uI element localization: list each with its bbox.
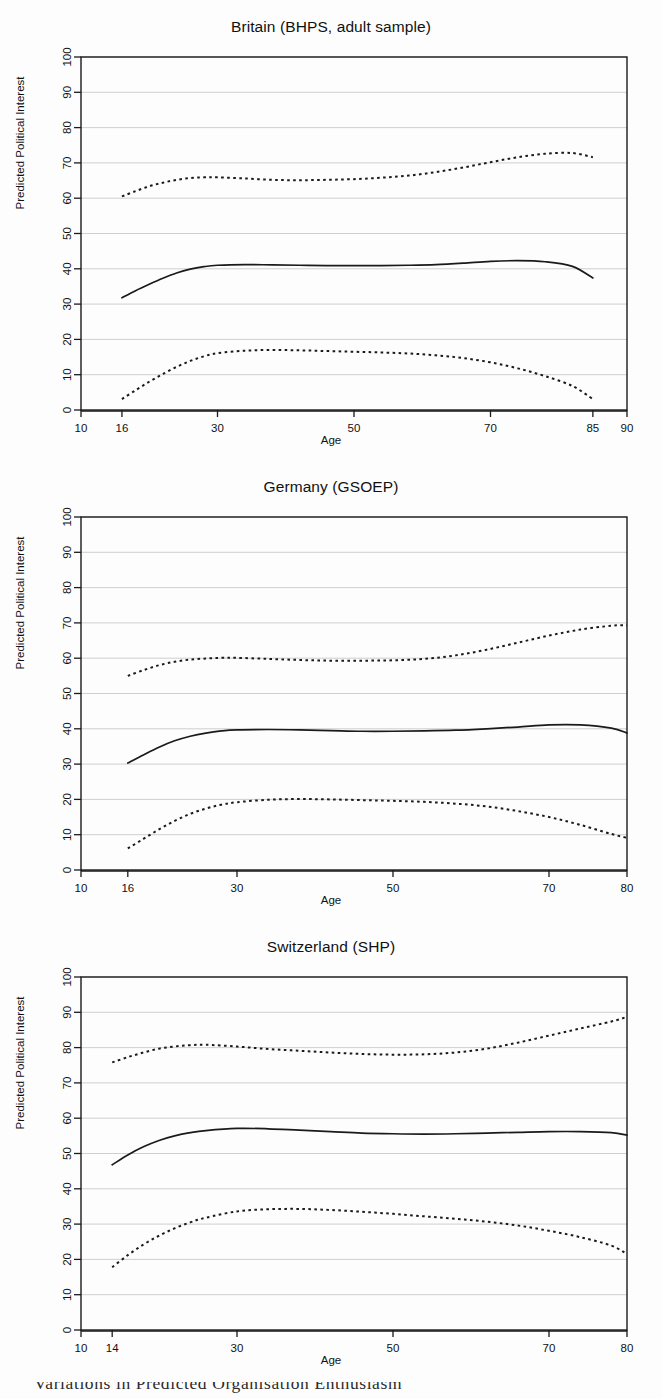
x-axis-label: Age (0, 434, 662, 446)
svg-text:16: 16 (116, 422, 129, 434)
y-axis-ticks: 0102030405060708090100 (61, 47, 81, 413)
plot-area: 0102030405060708090100101630507080 (0, 460, 662, 920)
svg-text:60: 60 (61, 652, 73, 665)
svg-text:90: 90 (621, 422, 634, 434)
y-axis-label-text: Predicted Political Interest (14, 76, 26, 209)
svg-text:30: 30 (61, 298, 73, 311)
svg-text:50: 50 (387, 1342, 400, 1354)
svg-text:50: 50 (61, 1147, 73, 1160)
svg-text:10: 10 (75, 422, 88, 434)
chart-panel-germany: 0102030405060708090100101630507080 Germa… (0, 460, 662, 920)
svg-text:50: 50 (61, 227, 73, 240)
svg-text:70: 70 (61, 617, 73, 630)
svg-text:30: 30 (61, 758, 73, 771)
svg-text:100: 100 (61, 47, 73, 66)
gridlines (81, 977, 627, 1295)
gridlines (81, 57, 627, 375)
svg-text:80: 80 (621, 1342, 634, 1354)
svg-text:70: 70 (61, 1077, 73, 1090)
chart-title: Britain (BHPS, adult sample) (0, 18, 662, 36)
svg-text:50: 50 (387, 882, 400, 894)
svg-text:10: 10 (61, 1288, 73, 1301)
svg-text:10: 10 (75, 1342, 88, 1354)
chart-panel-britain: 010203040506070809010010163050708590 Bri… (0, 0, 662, 460)
svg-text:30: 30 (231, 1342, 244, 1354)
series-predicted-mean (112, 1128, 627, 1164)
svg-text:90: 90 (61, 86, 73, 99)
svg-text:20: 20 (61, 793, 73, 806)
series-lower-bound (112, 1209, 627, 1267)
svg-text:10: 10 (61, 368, 73, 381)
svg-text:40: 40 (61, 722, 73, 735)
y-axis-label: Predicted Political Interest (14, 360, 26, 580)
svg-text:80: 80 (621, 882, 634, 894)
y-axis-label-text: Predicted Political Interest (14, 996, 26, 1129)
svg-text:70: 70 (543, 882, 556, 894)
svg-text:40: 40 (61, 1182, 73, 1195)
y-axis-label-text: Predicted Political Interest (14, 536, 26, 669)
svg-text:20: 20 (61, 1253, 73, 1266)
chart-title: Germany (GSOEP) (0, 478, 662, 496)
svg-text:14: 14 (106, 1342, 119, 1354)
svg-text:90: 90 (61, 546, 73, 559)
plot-area: 0102030405060708090100101430507080 (0, 920, 662, 1380)
series-predicted-mean (128, 725, 627, 763)
svg-text:70: 70 (484, 422, 497, 434)
svg-text:30: 30 (231, 882, 244, 894)
chart-title: Switzerland (SHP) (0, 938, 662, 956)
svg-text:40: 40 (61, 262, 73, 275)
series-upper-bound (112, 1017, 627, 1063)
series-upper-bound (122, 153, 593, 197)
svg-text:80: 80 (61, 1041, 73, 1054)
x-axis-ticks: 101430507080 (75, 1330, 634, 1354)
y-axis-label: Predicted Political Interest (14, 820, 26, 1040)
figure-page: 010203040506070809010010163050708590 Bri… (0, 0, 662, 1399)
svg-text:80: 80 (61, 121, 73, 134)
svg-text:100: 100 (61, 507, 73, 526)
svg-text:70: 70 (61, 157, 73, 170)
svg-text:85: 85 (586, 422, 599, 434)
x-axis-label: Age (0, 894, 662, 906)
svg-text:80: 80 (61, 581, 73, 594)
x-axis-ticks: 101630507080 (75, 870, 634, 894)
svg-text:50: 50 (61, 687, 73, 700)
svg-text:0: 0 (61, 407, 73, 413)
series-upper-bound (128, 625, 627, 676)
svg-text:90: 90 (61, 1006, 73, 1019)
svg-text:100: 100 (61, 967, 73, 986)
series-predicted-mean (122, 261, 593, 298)
x-axis-label: Age (0, 1354, 662, 1366)
svg-text:30: 30 (61, 1218, 73, 1231)
svg-text:60: 60 (61, 1112, 73, 1125)
chart-panel-switzerland: 0102030405060708090100101430507080 Switz… (0, 920, 662, 1380)
y-axis-ticks: 0102030405060708090100 (61, 967, 81, 1333)
svg-text:50: 50 (348, 422, 361, 434)
svg-text:60: 60 (61, 192, 73, 205)
svg-text:30: 30 (211, 422, 224, 434)
series-lower-bound (128, 799, 627, 848)
svg-text:16: 16 (121, 882, 134, 894)
svg-text:10: 10 (61, 828, 73, 841)
svg-text:70: 70 (543, 1342, 556, 1354)
cut-off-caption: Variations in Predicted Organisation Ent… (0, 1382, 662, 1399)
plot-area: 010203040506070809010010163050708590 (0, 0, 662, 460)
x-axis-ticks: 10163050708590 (75, 410, 634, 434)
svg-text:0: 0 (61, 867, 73, 873)
cut-off-caption-text: Variations in Predicted Organisation Ent… (34, 1382, 402, 1394)
y-axis-ticks: 0102030405060708090100 (61, 507, 81, 873)
y-axis-label: Predicted Political Interest (14, 0, 26, 120)
svg-text:0: 0 (61, 1327, 73, 1333)
svg-text:20: 20 (61, 333, 73, 346)
svg-text:10: 10 (75, 882, 88, 894)
gridlines (81, 517, 627, 835)
